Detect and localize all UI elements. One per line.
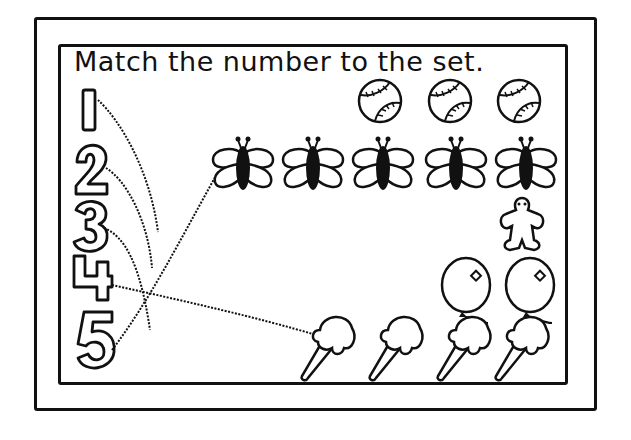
butterfly-icon [283, 137, 343, 191]
balloon-icon [442, 258, 490, 323]
number-3[interactable] [74, 201, 107, 251]
number-5[interactable] [78, 312, 114, 368]
ice-cream-cone-icon [496, 317, 549, 380]
number-2[interactable] [76, 145, 107, 194]
set-butterflies[interactable] [213, 137, 556, 191]
number-4[interactable] [74, 256, 112, 300]
set-gingerbread[interactable] [501, 198, 543, 250]
butterfly-icon [496, 137, 556, 191]
set-ice-cream-cones[interactable] [302, 317, 549, 380]
balloon-icon [506, 258, 554, 323]
ice-cream-cone-icon [438, 317, 491, 380]
baseball-icon [429, 80, 471, 122]
set-baseballs[interactable] [359, 80, 540, 122]
line-from-4 [112, 285, 316, 335]
butterfly-icon [213, 137, 273, 191]
ice-cream-cone-icon [302, 317, 355, 380]
butterfly-icon [353, 137, 413, 191]
drawn-lines [98, 100, 316, 350]
line-from-5 [112, 172, 218, 350]
baseball-icon [498, 80, 540, 122]
ice-cream-cone-icon [370, 317, 423, 380]
number-1[interactable] [83, 90, 95, 130]
butterfly-icon [426, 137, 486, 191]
gingerbread-man-icon [501, 198, 543, 250]
baseball-icon [359, 80, 401, 122]
set-balloons[interactable] [442, 258, 554, 323]
